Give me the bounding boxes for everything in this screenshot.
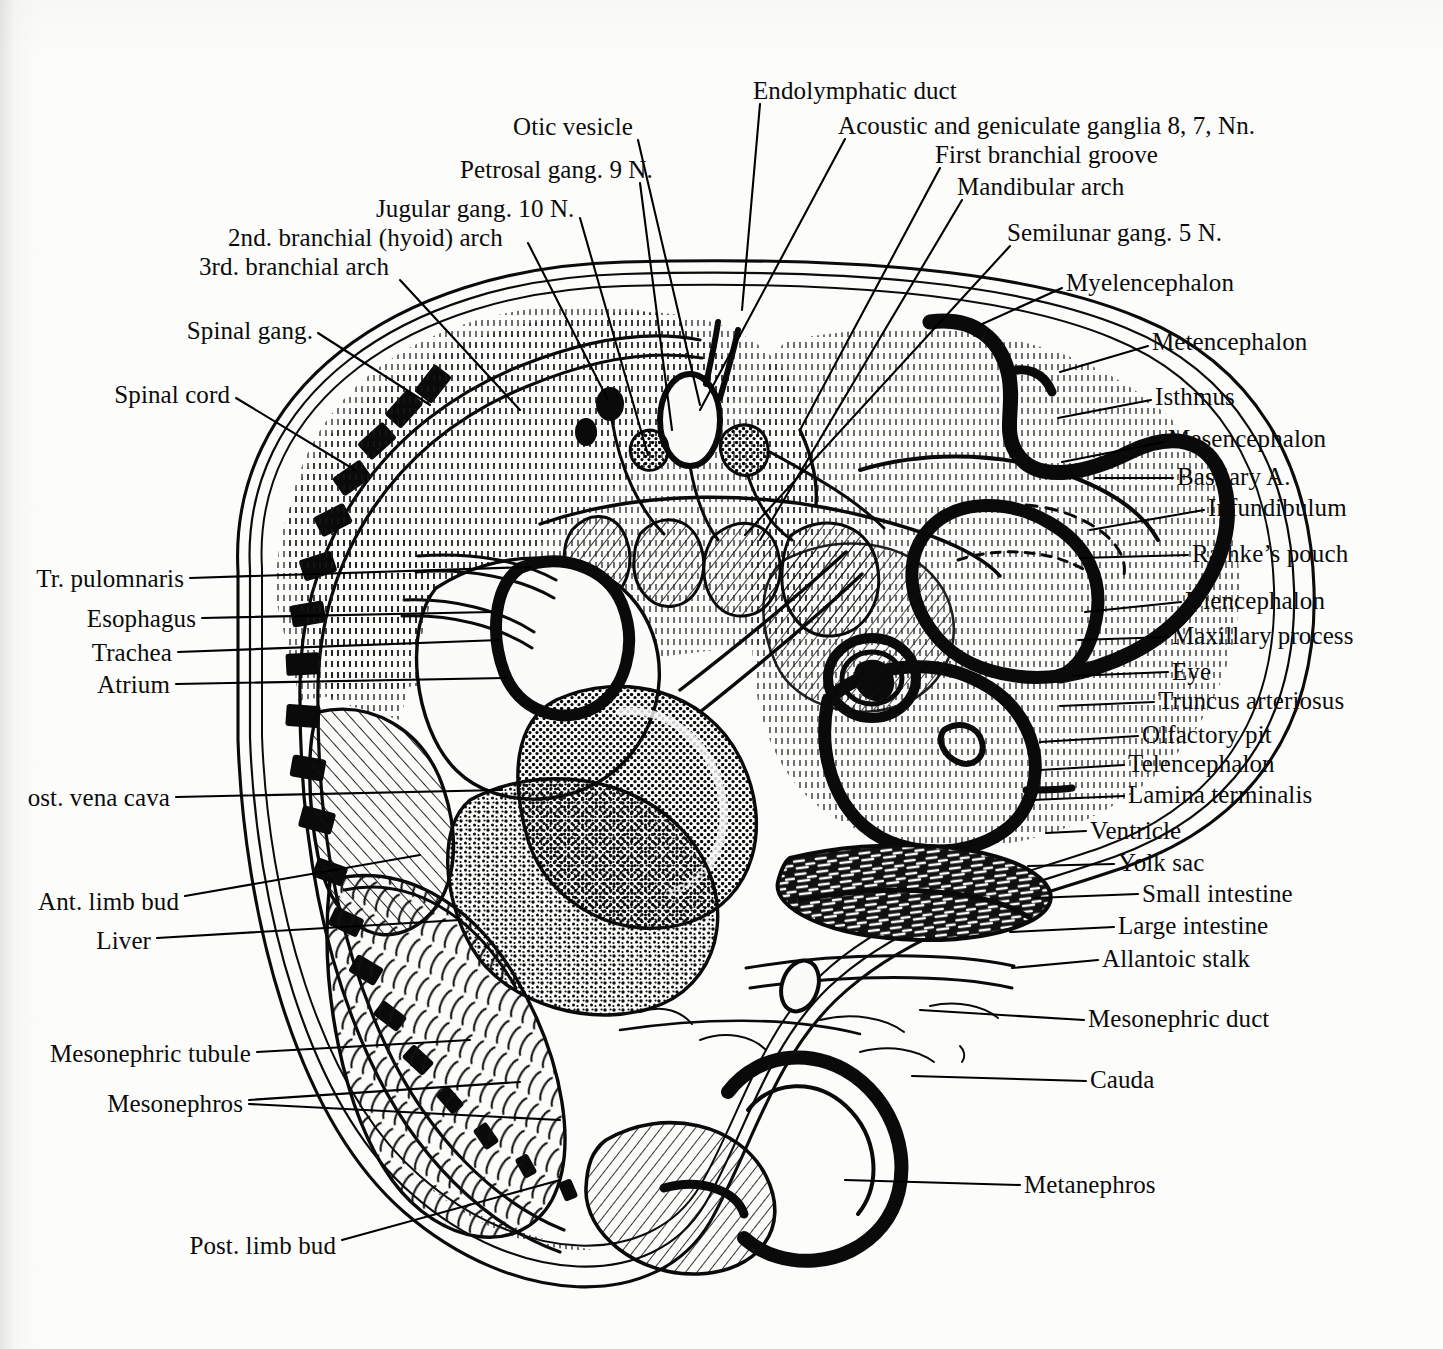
label-semilunar-gang-5n: Semilunar gang. 5 N.	[1007, 220, 1222, 245]
label-rathkes-pouch: Rathke’s pouch	[1192, 541, 1348, 566]
label-small-intestine: Small intestine	[1142, 881, 1293, 906]
label-petrosal-gang-9n: Petrosal gang. 9 N.	[460, 157, 653, 182]
label-basilary-a: Basilary A.	[1177, 464, 1291, 489]
label-endolymphatic-duct: Endolymphatic duct	[753, 78, 957, 103]
label-yolk-sac: Yolk sac	[1118, 850, 1204, 875]
label-spinal-gang: Spinal gang.	[187, 318, 313, 343]
label-post-limb-bud: Post. limb bud	[189, 1233, 336, 1258]
label-spinal-cord: Spinal cord	[114, 382, 230, 407]
label-acoustic-geniculate-ganglia: Acoustic and geniculate ganglia 8, 7, Nn…	[838, 113, 1255, 138]
label-telencephalon: Telencephalon	[1128, 751, 1275, 776]
label-allantoic-stalk: Allantoic stalk	[1102, 946, 1250, 971]
label-trachea: Trachea	[92, 640, 172, 665]
label-isthmus: Isthmus	[1155, 384, 1235, 409]
label-mesencephalon: Mesencephalon	[1168, 426, 1326, 451]
label-eye: Eye	[1172, 659, 1211, 684]
label-mandibular-arch: Mandibular arch	[957, 174, 1124, 199]
label-ventricle: Ventricle	[1090, 818, 1181, 843]
label-ant-limb-bud: Ant. limb bud	[38, 889, 179, 914]
label-mesonephros: Mesonephros	[107, 1091, 243, 1116]
label-myelencephalon: Myelencephalon	[1066, 270, 1234, 295]
label-layer: Endolymphatic ductOtic vesicleAcoustic a…	[0, 0, 1443, 1349]
label-metencephalon: Metencephalon	[1152, 329, 1307, 354]
label-tr-pulomnaris: Tr. pulomnaris	[36, 566, 184, 591]
label-cauda: Cauda	[1090, 1067, 1154, 1092]
label-metanephros: Metanephros	[1024, 1172, 1156, 1197]
label-jugular-gang-10n: Jugular gang. 10 N.	[376, 196, 574, 221]
label-truncus-arteriosus: Truncus arteriosus	[1158, 688, 1344, 713]
label-large-intestine: Large intestine	[1118, 913, 1268, 938]
label-infundibulum: Infundibulum	[1208, 495, 1347, 520]
label-maxillary-process: Maxillary process	[1172, 623, 1354, 648]
anatomical-plate: Endolymphatic ductOtic vesicleAcoustic a…	[0, 0, 1443, 1349]
label-esophagus: Esophagus	[87, 606, 196, 631]
label-second-branchial-hyoid-arch: 2nd. branchial (hyoid) arch	[228, 225, 503, 250]
label-otic-vesicle: Otic vesicle	[513, 114, 633, 139]
label-liver: Liver	[96, 928, 151, 953]
label-mesonephric-duct: Mesonephric duct	[1088, 1006, 1269, 1031]
label-diencephalon: Diencephalon	[1185, 588, 1325, 613]
label-post-vena-cava: ost. vena cava	[28, 785, 170, 810]
label-third-branchial-arch: 3rd. branchial arch	[199, 254, 389, 279]
label-first-branchial-groove: First branchial groove	[935, 142, 1158, 167]
label-atrium: Atrium	[97, 672, 170, 697]
label-olfactory-pit: Olfactory pit	[1142, 722, 1272, 747]
label-lamina-terminalis: Lamina terminalis	[1128, 782, 1312, 807]
label-mesonephric-tubule: Mesonephric tubule	[50, 1041, 251, 1066]
